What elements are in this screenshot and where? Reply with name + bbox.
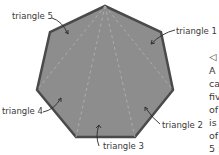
label-triangle-4: triangle 4: [2, 107, 43, 116]
side-text-line: ca: [209, 77, 219, 90]
side-text-line: 5 :: [209, 142, 219, 155]
side-text-line: of: [209, 103, 218, 116]
side-text-line: is: [209, 116, 217, 129]
heptagon-diagram: [0, 0, 219, 155]
side-marker-icon: ◁: [209, 50, 216, 63]
label-triangle-5: triangle 5: [12, 12, 53, 21]
side-text-line: of: [209, 129, 218, 142]
label-triangle-1: triangle 1: [176, 27, 217, 36]
side-text-line: A: [209, 64, 216, 77]
label-triangle-3: triangle 3: [103, 142, 144, 151]
side-text-line: fiv: [209, 90, 219, 103]
label-triangle-2: triangle 2: [162, 121, 203, 130]
